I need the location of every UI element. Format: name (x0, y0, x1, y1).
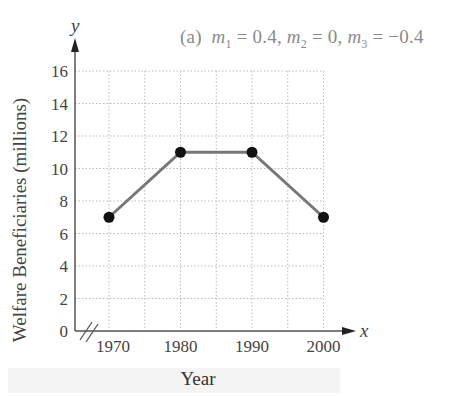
data-point (318, 212, 329, 223)
y-tick-label: 0 (60, 322, 69, 341)
y-tick-label: 2 (60, 290, 69, 309)
data-point (175, 147, 186, 158)
y-axis-arrow-icon (71, 38, 79, 52)
y-tick-label: 16 (51, 62, 68, 81)
x-axis-symbol: x (359, 320, 369, 341)
y-axis-symbol: y (69, 15, 80, 36)
x-tick-label: 1990 (235, 337, 269, 356)
y-tick-label: 14 (51, 95, 69, 114)
x-axis-arrow-icon (342, 327, 356, 335)
x-tick-label: 1970 (96, 337, 130, 356)
y-tick-label: 10 (51, 160, 68, 179)
x-tick-label: 1980 (164, 337, 198, 356)
x-tick-label: 2000 (307, 337, 341, 356)
y-tick-label: 6 (60, 225, 69, 244)
grid (75, 71, 324, 331)
data-point (247, 147, 258, 158)
y-tick-label: 12 (51, 127, 68, 146)
tick-labels: 02468101214161970198019902000 (51, 62, 341, 356)
y-tick-label: 8 (60, 192, 69, 211)
line-chart: yx 02468101214161970198019902000 (0, 0, 464, 396)
y-tick-label: 4 (60, 257, 69, 276)
data-point (104, 212, 115, 223)
